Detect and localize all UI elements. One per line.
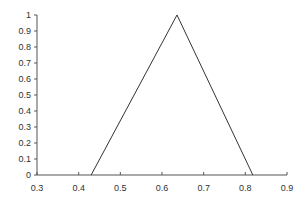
y-tick-label: 1 <box>26 10 31 20</box>
y-tick-label: 0.6 <box>18 74 31 84</box>
y-tick-label: 0.9 <box>18 26 31 36</box>
x-tick-label: 0.5 <box>114 183 127 193</box>
x-tick-label: 0.4 <box>72 183 85 193</box>
x-axis: 0.30.40.50.60.70.80.9 <box>31 172 294 193</box>
y-tick-label: 0 <box>26 170 31 180</box>
y-tick-label: 0.7 <box>18 58 31 68</box>
x-tick-label: 0.8 <box>239 183 252 193</box>
chart-area: 00.10.20.30.40.50.60.70.80.91 0.30.40.50… <box>0 0 308 203</box>
y-axis: 00.10.20.30.40.50.60.70.80.91 <box>18 10 37 180</box>
y-tick-label: 0.4 <box>18 106 31 116</box>
y-tick-label: 0.1 <box>18 154 31 164</box>
x-tick-label: 0.7 <box>197 183 210 193</box>
x-tick-label: 0.9 <box>281 183 294 193</box>
y-tick-label: 0.3 <box>18 122 31 132</box>
series-line <box>91 15 253 175</box>
y-tick-label: 0.5 <box>18 90 31 100</box>
data-series <box>91 15 253 175</box>
y-tick-label: 0.8 <box>18 42 31 52</box>
x-tick-label: 0.6 <box>156 183 169 193</box>
x-tick-label: 0.3 <box>31 183 44 193</box>
y-tick-label: 0.2 <box>18 138 31 148</box>
